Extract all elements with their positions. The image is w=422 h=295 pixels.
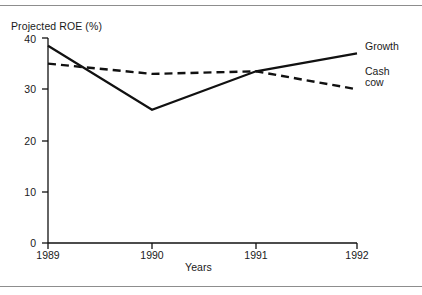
series-label-growth: Growth	[365, 41, 399, 52]
plot-area	[0, 0, 422, 295]
series-line-cash-cow	[48, 64, 357, 90]
series-line-growth	[48, 46, 357, 110]
figure-container: Projected ROE (%) Years 0 10 20 30 40 19…	[0, 0, 422, 295]
y-axis-ticks	[42, 38, 48, 243]
series-label-cash-cow: Cash cow	[365, 66, 390, 88]
x-axis-ticks	[48, 243, 357, 249]
series-label-cash-cow-line2: cow	[365, 77, 390, 88]
